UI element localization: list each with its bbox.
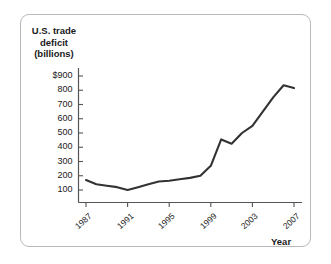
- data-line-us-trade-deficit: [86, 85, 294, 190]
- chart-figure: U.S. trade deficit (billions) Year $9008…: [0, 0, 331, 264]
- chart-series-group: [86, 85, 294, 190]
- chart-plot-area: [0, 0, 331, 264]
